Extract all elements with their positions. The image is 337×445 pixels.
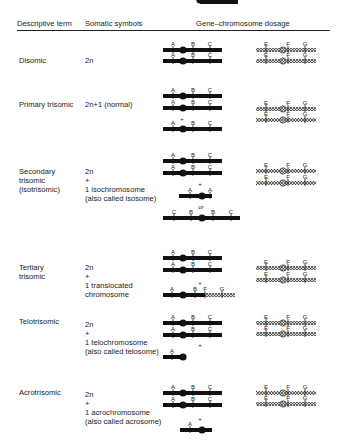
gene-label: B xyxy=(191,120,195,126)
gene-label: B xyxy=(191,384,195,390)
centromere xyxy=(179,46,186,53)
gene-label: G xyxy=(303,174,308,180)
gene-label: B xyxy=(193,286,197,292)
gene-label: B xyxy=(191,87,195,93)
gene-label: A xyxy=(171,152,175,158)
gene-label: A xyxy=(171,164,175,170)
gene-label: E xyxy=(264,395,268,401)
acrochromosome xyxy=(180,428,212,432)
chromosome-abc xyxy=(163,171,222,175)
gene-label: G xyxy=(303,395,308,401)
chromosome-abc xyxy=(163,268,222,272)
gene-label: C xyxy=(208,384,213,390)
chromosome-abc xyxy=(163,94,222,98)
gene-label: A xyxy=(188,421,192,427)
gene-label: C xyxy=(229,209,234,215)
gene-label: G xyxy=(303,100,308,106)
gene-label: E xyxy=(264,52,268,58)
gene-label: A xyxy=(208,187,212,193)
gene-label: A xyxy=(171,99,175,105)
chromosome-abc xyxy=(163,403,222,407)
plus-sign: + xyxy=(198,280,202,286)
centromere xyxy=(280,331,286,337)
gene-label: C xyxy=(208,52,213,58)
chromosome-abc xyxy=(163,256,222,260)
gene-label: F xyxy=(286,271,290,277)
gene-label: F xyxy=(286,100,290,106)
gene-label: B xyxy=(191,164,195,170)
centromere xyxy=(198,192,205,199)
gene-label: A xyxy=(171,314,175,320)
centromere xyxy=(179,401,186,408)
centromere xyxy=(280,58,286,64)
gene-label: B xyxy=(191,326,195,332)
gene-label: C xyxy=(208,87,213,93)
chromosome-abc xyxy=(163,321,222,325)
centromere xyxy=(280,117,286,123)
gene-label: B xyxy=(191,396,195,402)
gene-label: C xyxy=(208,164,213,170)
gene-label: E xyxy=(264,314,268,320)
gene-label: B xyxy=(191,314,195,320)
gene-label: F xyxy=(286,41,290,47)
gene-label: F xyxy=(286,259,290,265)
isochromosome xyxy=(179,194,212,198)
gene-label: F xyxy=(286,314,290,320)
chromosome-abc xyxy=(163,59,222,63)
gene-label: A xyxy=(170,348,174,354)
gene-label: G xyxy=(303,325,308,331)
gene-label: C xyxy=(208,249,213,255)
gene-label: C xyxy=(172,209,177,215)
gene-label: E xyxy=(264,174,268,180)
gene-label: B xyxy=(191,249,195,255)
centromere xyxy=(280,401,286,407)
gene-label: B xyxy=(191,41,195,47)
translocated-chromosome-efg xyxy=(205,293,235,297)
gene-label: A xyxy=(171,384,175,390)
gene-label: G xyxy=(220,286,225,292)
plus-sign: + xyxy=(198,342,202,348)
centromere xyxy=(179,331,186,338)
gene-label: E xyxy=(264,41,268,47)
chromosome-abc xyxy=(163,127,222,131)
gene-label: A xyxy=(170,286,174,292)
gene-label: B xyxy=(191,261,195,267)
gene-label: C xyxy=(226,0,231,1)
gene-label: C xyxy=(208,120,213,126)
gene-label: B xyxy=(191,99,195,105)
gene-label: C xyxy=(208,261,213,267)
centromere xyxy=(179,319,186,326)
gene-label: A xyxy=(171,326,175,332)
or-label: or xyxy=(189,0,194,1)
gene-label: E xyxy=(264,271,268,277)
gene-label: F xyxy=(286,384,290,390)
gene-label: G xyxy=(303,41,308,47)
gene-label: E xyxy=(264,325,268,331)
chromosome-abc xyxy=(163,333,222,337)
chromosome-abc xyxy=(163,391,222,395)
gene-label: A xyxy=(171,87,175,93)
gene-label: C xyxy=(208,314,213,320)
centromere xyxy=(280,180,286,186)
centromere xyxy=(179,169,186,176)
gene-label: B xyxy=(211,209,215,215)
gene-label: B xyxy=(191,52,195,58)
centromere xyxy=(179,125,186,132)
centromere xyxy=(179,157,186,164)
gene-label: F xyxy=(286,162,290,168)
or-label: or xyxy=(198,204,203,210)
gene-label: C xyxy=(208,396,213,402)
centromere xyxy=(179,266,186,273)
gene-label: A xyxy=(171,396,175,402)
gene-label: F xyxy=(286,395,290,401)
telochromosome xyxy=(200,0,238,4)
gene-label: G xyxy=(303,271,308,277)
chromosome-diagram: ABCABCEFGEFGABCABCABC+EFGEFGABCABCAA+orC… xyxy=(0,0,337,445)
gene-label: G xyxy=(303,259,308,265)
gene-label: A xyxy=(171,120,175,126)
gene-label: A xyxy=(171,261,175,267)
gene-label: G xyxy=(303,162,308,168)
centromere xyxy=(198,214,205,221)
gene-label: C xyxy=(208,326,213,332)
gene-label: G xyxy=(303,384,308,390)
